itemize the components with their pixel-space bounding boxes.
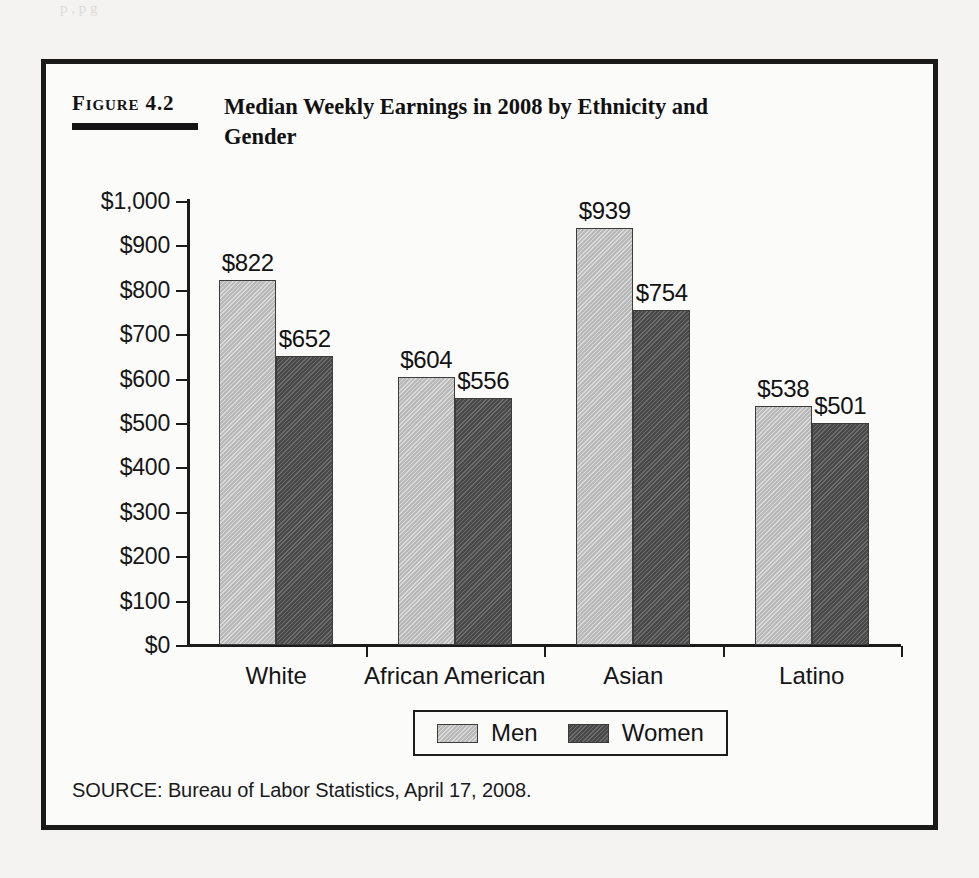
y-axis-label: $400 (120, 454, 170, 481)
bar-group: $822$652White (187, 201, 366, 645)
legend-label: Men (491, 719, 538, 747)
bar-women[interactable]: $754 (633, 310, 690, 645)
y-axis-label: $600 (120, 365, 170, 392)
y-axis-label: $800 (120, 276, 170, 303)
bar-value-label: $501 (814, 392, 866, 420)
bar-value-label: $652 (279, 325, 331, 353)
y-axis-label: $100 (120, 587, 170, 614)
bar-value-label: $754 (636, 279, 688, 307)
y-axis-tick (176, 512, 187, 514)
figure-number-block: Figure 4.2 (72, 91, 224, 130)
y-axis-tick (176, 290, 187, 292)
x-axis-category-label: White (246, 662, 307, 690)
y-axis-label: $500 (120, 410, 170, 437)
legend-item-men[interactable]: Men (437, 719, 538, 747)
y-axis-label: $200 (120, 543, 170, 570)
x-axis-tick (723, 646, 725, 657)
bar-women[interactable]: $652 (276, 356, 333, 645)
x-axis-tick (366, 646, 368, 657)
y-axis-label: $1,000 (101, 188, 170, 215)
bar-group: $538$501Latino (723, 201, 902, 645)
figure-rule (72, 123, 198, 130)
y-axis-tick (176, 467, 187, 469)
y-axis-label: $900 (120, 232, 170, 259)
y-axis-tick (176, 379, 187, 381)
bar-women[interactable]: $501 (812, 423, 869, 645)
y-axis-tick (176, 645, 187, 647)
figure-caption: Figure 4.2 Median Weekly Earnings in 200… (72, 91, 902, 152)
y-axis-label: $700 (120, 321, 170, 348)
bar-men[interactable]: $538 (755, 406, 812, 645)
chart-area: $0$100$200$300$400$500$600$700$800$900$1… (46, 184, 933, 724)
legend-swatch-women (568, 724, 609, 743)
bar-men[interactable]: $939 (576, 228, 633, 645)
y-axis-label: $0 (145, 632, 170, 659)
figure-number: Figure 4.2 (72, 91, 224, 116)
y-axis-label: $300 (120, 498, 170, 525)
bar-women[interactable]: $556 (455, 398, 512, 645)
y-axis-tick (176, 556, 187, 558)
x-axis-tick (901, 646, 903, 657)
y-axis-tick (176, 601, 187, 603)
page-bleed-text: p , p g (60, 0, 460, 18)
y-axis-tick (176, 245, 187, 247)
x-axis-category-label: African American (364, 662, 545, 690)
bar-men[interactable]: $822 (219, 280, 276, 645)
bar-men[interactable]: $604 (398, 377, 455, 645)
y-axis-tick (176, 201, 187, 203)
x-axis-category-label: Latino (779, 662, 844, 690)
legend-swatch-men (437, 724, 478, 743)
bar-value-label: $822 (222, 249, 274, 277)
bar-value-label: $604 (400, 346, 452, 374)
figure-box: Figure 4.2 Median Weekly Earnings in 200… (41, 59, 938, 830)
y-axis-tick (176, 334, 187, 336)
x-axis-tick (544, 646, 546, 657)
bar-value-label: $939 (579, 197, 631, 225)
x-axis-category-label: Asian (603, 662, 663, 690)
bar-value-label: $538 (757, 375, 809, 403)
plot-area: $0$100$200$300$400$500$600$700$800$900$1… (187, 201, 901, 645)
figure-title: Median Weekly Earnings in 2008 by Ethnic… (224, 91, 784, 152)
bar-value-label: $556 (457, 367, 509, 395)
bar-group: $939$754Asian (544, 201, 723, 645)
y-axis-tick (176, 423, 187, 425)
figure-source: SOURCE: Bureau of Labor Statistics, Apri… (72, 779, 532, 802)
bar-group: $604$556African American (366, 201, 545, 645)
legend-item-women[interactable]: Women (568, 719, 704, 747)
chart-legend: MenWomen (413, 710, 728, 756)
legend-label: Women (622, 719, 704, 747)
